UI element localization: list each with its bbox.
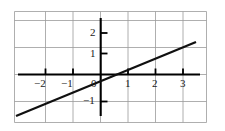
y-tick-label-pos2: 2 — [90, 27, 96, 38]
x-tick-label-neg2: −2 — [34, 78, 46, 89]
x-tick-label-neg1: −1 — [61, 78, 73, 89]
origin-label: 0 — [91, 78, 97, 89]
coordinate-plane — [0, 0, 225, 131]
graph-figure: −2 −1 1 2 3 2 1 −1 0 — [0, 0, 225, 131]
y-tick-label-pos1: 1 — [90, 48, 96, 59]
x-tick-label-pos1: 1 — [125, 78, 131, 89]
y-tick-label-neg1: −1 — [83, 95, 95, 106]
x-tick-label-pos2: 2 — [152, 78, 158, 89]
x-tick-label-pos3: 3 — [180, 78, 186, 89]
